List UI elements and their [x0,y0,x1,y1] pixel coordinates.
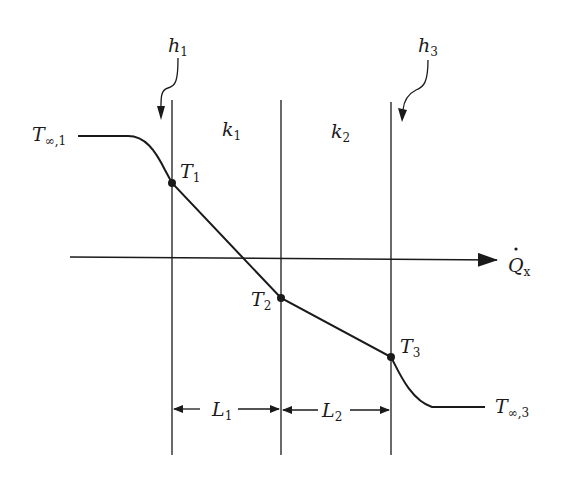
label-L1: L1 [211,398,232,423]
label-k1: k1 [222,118,241,143]
label-k2: k2 [331,120,350,145]
Q-dot [514,247,517,250]
point-T2 [277,294,285,302]
label-Qx: Qx [508,254,531,279]
label-T1: T1 [180,160,200,185]
label-T-inf-3: T∞,3 [495,395,529,420]
h1-arrowhead-icon [157,106,165,120]
h3-arrow-icon [403,60,428,110]
label-T2: T2 [251,288,271,313]
label-h1: h1 [168,34,188,59]
h3-arrowhead-icon [398,108,407,122]
h1-arrow-icon [161,58,178,112]
composite-wall-diagram: h1 h3 k1 k2 T∞,1 T1 T2 T3 T∞,3 Qx L1 L2 [0,0,565,478]
label-h3: h3 [418,34,438,59]
label-L2: L2 [321,399,342,424]
label-T3: T3 [400,335,420,360]
heat-flow-axis [70,257,497,260]
point-T1 [168,179,176,187]
label-T-inf-1: T∞,1 [32,123,66,148]
point-T3 [387,353,395,361]
